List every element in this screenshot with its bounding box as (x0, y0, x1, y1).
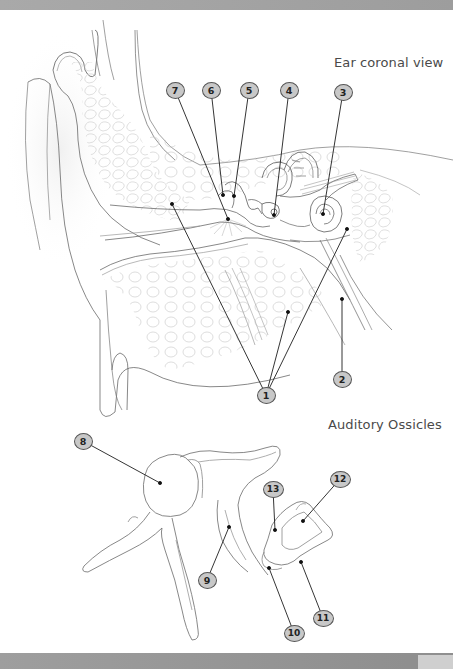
label-badge-10: 10 (284, 625, 305, 642)
label-badge-9: 9 (198, 572, 217, 589)
label-badge-7: 7 (166, 82, 185, 99)
label-badge-1: 1 (257, 387, 276, 404)
label-badge-2: 2 (333, 371, 352, 388)
label-badge-8: 8 (74, 433, 93, 450)
label-badge-6: 6 (202, 82, 221, 99)
label-badge-13: 13 (263, 481, 284, 498)
auditory-ossicles-title: Auditory Ossicles (328, 417, 442, 432)
anatomy-illustration (0, 0, 453, 669)
label-badge-5: 5 (240, 82, 259, 99)
footer-tab (418, 655, 453, 669)
label-badge-12: 12 (330, 471, 351, 488)
label-badge-3: 3 (334, 84, 353, 101)
footer-bar (0, 653, 453, 669)
ossicles-drawing (83, 446, 333, 640)
label-badge-4: 4 (280, 82, 299, 99)
label-badge-11: 11 (313, 610, 334, 627)
ear-coronal-view-title: Ear coronal view (334, 55, 443, 70)
